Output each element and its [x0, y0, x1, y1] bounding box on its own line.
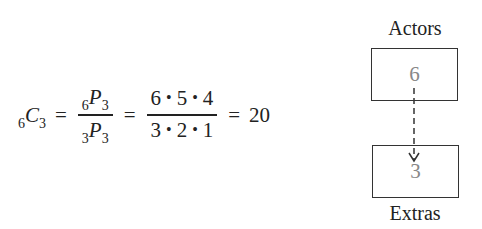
- extras-label: Extras: [355, 202, 475, 225]
- extras-count: 3: [410, 159, 421, 184]
- extras-box: 3: [372, 145, 459, 198]
